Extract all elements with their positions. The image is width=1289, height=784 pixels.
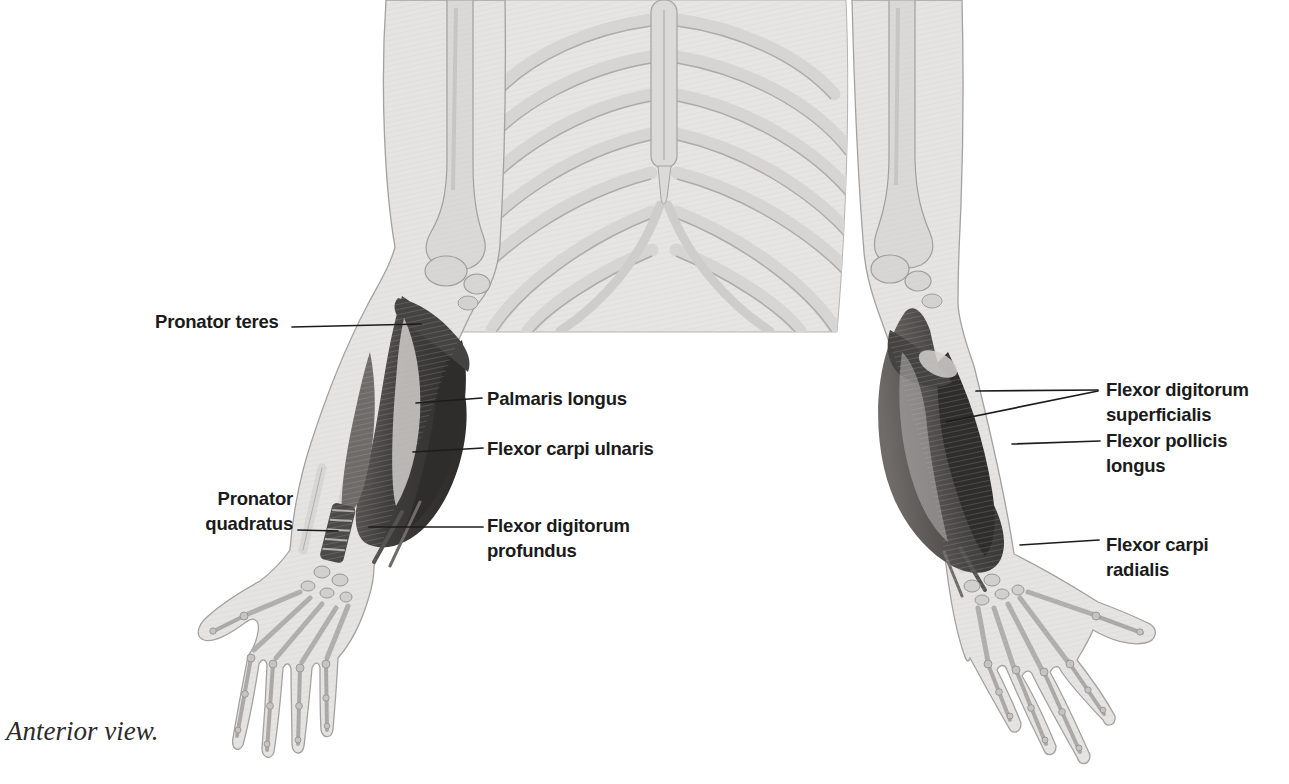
anatomy-illustration — [0, 0, 1289, 784]
leader-flexor-pollicis-longus — [1012, 441, 1100, 444]
label-flexor-digitorum-profundus: Flexor digitorum profundus — [487, 513, 657, 563]
left-arm — [198, 0, 505, 757]
figure-caption: Anterior view. — [6, 716, 158, 747]
label-flexor-pollicis-longus: Flexor pollicis longus — [1106, 428, 1256, 478]
leader-flexor-carpi-radialis — [1020, 540, 1099, 545]
label-flexor-carpi-radialis: Flexor carpi radialis — [1106, 532, 1234, 582]
label-flexor-digitorum-superficialis: Flexor digitorum superficialis — [1106, 377, 1278, 427]
anatomy-figure: Pronator teres Palmaris longus Flexor ca… — [0, 0, 1289, 784]
label-palmaris-longus: Palmaris longus — [487, 386, 627, 411]
label-pronator-teres: Pronator teres — [155, 309, 279, 334]
leader-flexor-digitorum-superficialis-1 — [976, 390, 1098, 391]
label-pronator-quadratus: Pronator quadratus — [188, 486, 293, 536]
leader-pronator-quadratus — [298, 530, 338, 531]
label-flexor-carpi-ulnaris: Flexor carpi ulnaris — [487, 436, 654, 461]
